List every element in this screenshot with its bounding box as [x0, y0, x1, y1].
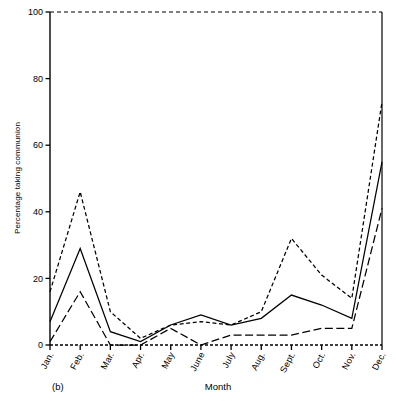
- y-tick-label: 40: [33, 207, 43, 217]
- y-tick-label: 60: [33, 140, 43, 150]
- series-line-lower: [50, 208, 382, 345]
- x-tick-label-5: June: [188, 350, 206, 373]
- y-tick-label: 100: [28, 7, 43, 17]
- x-tick-label-1: Feb.: [68, 350, 86, 371]
- y-tick-label: 0: [38, 340, 43, 350]
- panel-label: (b): [52, 381, 64, 392]
- x-tick-label-10: Nov.: [340, 350, 358, 371]
- data-series-group: [50, 102, 382, 345]
- x-tick-label-2: Mar.: [99, 350, 116, 371]
- x-tick-label-3: Apr.: [130, 350, 147, 370]
- axis-frame: [50, 12, 382, 345]
- y-axis-title: Percentage taking communion: [13, 122, 22, 234]
- x-axis-tick-labels: Jan.Feb.Mar.Apr.MayJuneJulyAug.Sept.Oct.…: [39, 350, 388, 374]
- x-tick-label-6: July: [220, 350, 237, 370]
- x-tick-label-4: May: [159, 350, 176, 371]
- x-tick-label-9: Oct.: [310, 350, 327, 370]
- x-axis-ticks: [50, 345, 382, 350]
- x-tick-label-0: Jan.: [39, 350, 56, 370]
- x-tick-label-7: Aug.: [249, 350, 267, 372]
- x-tick-label-11: Dec.: [370, 350, 388, 372]
- y-tick-label: 80: [33, 74, 43, 84]
- line-chart-plot: 020406080100 Jan.Feb.Mar.Apr.MayJuneJuly…: [0, 0, 396, 401]
- series-line-middle: [50, 162, 382, 342]
- x-tick-label-8: Sept.: [278, 350, 297, 374]
- y-axis-tick-labels: 020406080100: [28, 7, 43, 350]
- x-axis-title: Month: [205, 381, 231, 392]
- y-tick-label: 20: [33, 274, 43, 284]
- chart-figure: 020406080100 Jan.Feb.Mar.Apr.MayJuneJuly…: [0, 0, 396, 401]
